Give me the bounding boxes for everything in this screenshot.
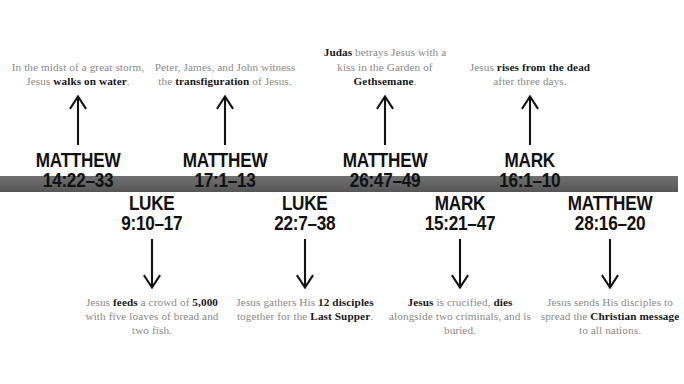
event-scripture-reference: MATTHEW26:47–49 bbox=[343, 151, 428, 190]
reference-book: MATTHEW bbox=[183, 149, 268, 171]
timeline-event: MATTHEW28:16–20Jesus sends His disciples… bbox=[535, 194, 684, 338]
arrow-up-icon bbox=[521, 95, 539, 145]
reference-book: MATTHEW bbox=[568, 192, 653, 214]
event-caption: Jesus feeds a crowd of 5,000 with five l… bbox=[81, 295, 223, 338]
timeline-event: LUKE9:10–17Jesus feeds a crowd of 5,000 … bbox=[77, 194, 227, 338]
reference-verse: 16:1–10 bbox=[499, 171, 560, 191]
reference-book: MATTHEW bbox=[36, 149, 121, 171]
event-scripture-reference: LUKE22:7–38 bbox=[274, 194, 335, 233]
event-caption: Peter, James, and John witness the trans… bbox=[154, 60, 296, 88]
reference-book: MARK bbox=[435, 192, 485, 214]
reference-verse: 26:47–49 bbox=[343, 171, 428, 191]
event-scripture-reference: LUKE9:10–17 bbox=[121, 194, 182, 233]
event-caption: Jesus gathers His 12 disciples together … bbox=[234, 295, 376, 323]
event-caption: In the midst of a great storm, Jesus wal… bbox=[7, 60, 149, 88]
arrow-down-icon bbox=[143, 239, 161, 289]
reference-verse: 15:21–47 bbox=[425, 214, 495, 234]
timeline-event: LUKE22:7–38Jesus gathers His 12 disciple… bbox=[230, 194, 380, 323]
timeline-event: Judas betrays Jesus with a kiss in the G… bbox=[310, 45, 460, 190]
reference-book: MATTHEW bbox=[343, 149, 428, 171]
event-scripture-reference: MARK16:1–10 bbox=[499, 151, 560, 190]
timeline-event: In the midst of a great storm, Jesus wal… bbox=[3, 60, 153, 190]
reference-verse: 28:16–20 bbox=[568, 214, 653, 234]
timeline-event: Jesus rises from the dead after three da… bbox=[455, 60, 605, 190]
arrow-down-icon bbox=[296, 239, 314, 289]
event-caption: Judas betrays Jesus with a kiss in the G… bbox=[314, 45, 456, 88]
reference-verse: 22:7–38 bbox=[274, 214, 335, 234]
reference-verse: 9:10–17 bbox=[121, 214, 182, 234]
timeline-event: Peter, James, and John witness the trans… bbox=[150, 60, 300, 190]
event-scripture-reference: MATTHEW17:1–13 bbox=[183, 151, 268, 190]
arrow-up-icon bbox=[376, 95, 394, 145]
reference-verse: 14:22–33 bbox=[36, 171, 121, 191]
reference-book: LUKE bbox=[282, 192, 328, 214]
arrow-down-icon bbox=[601, 239, 619, 289]
arrow-up-icon bbox=[69, 95, 87, 145]
reference-verse: 17:1–13 bbox=[183, 171, 268, 191]
arrow-up-icon bbox=[216, 95, 234, 145]
event-scripture-reference: MARK15:21–47 bbox=[425, 194, 495, 233]
event-caption: Jesus is crucified, dies alongside two c… bbox=[389, 295, 531, 338]
reference-book: MARK bbox=[505, 149, 555, 171]
event-scripture-reference: MATTHEW28:16–20 bbox=[568, 194, 653, 233]
event-caption: Jesus rises from the dead after three da… bbox=[459, 60, 601, 88]
event-scripture-reference: MATTHEW14:22–33 bbox=[36, 151, 121, 190]
timeline-event: MARK15:21–47Jesus is crucified, dies alo… bbox=[385, 194, 535, 338]
arrow-down-icon bbox=[451, 239, 469, 289]
event-caption: Jesus sends His disciples to spread the … bbox=[539, 295, 681, 338]
reference-book: LUKE bbox=[129, 192, 175, 214]
